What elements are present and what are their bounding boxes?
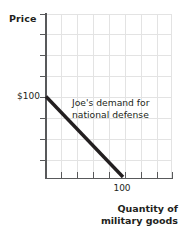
demand-curve-figure: Price $100 100 Quantity of military good… <box>0 0 185 236</box>
x-axis-title-line-2: military goods <box>101 215 178 227</box>
x-axis-title: Quantity of military goods <box>101 203 178 227</box>
y-axis-title: Price <box>9 13 36 24</box>
x-axis-title-line-1: Quantity of <box>101 203 178 215</box>
curve-annotation-line-2: national defense <box>72 109 150 121</box>
curve-annotation: Joe's demand for national defense <box>72 97 150 120</box>
y-axis-tick-label-100: $100 <box>17 91 40 101</box>
curve-annotation-line-1: Joe's demand for <box>72 97 150 109</box>
x-axis-tick-label-100: 100 <box>108 183 136 193</box>
